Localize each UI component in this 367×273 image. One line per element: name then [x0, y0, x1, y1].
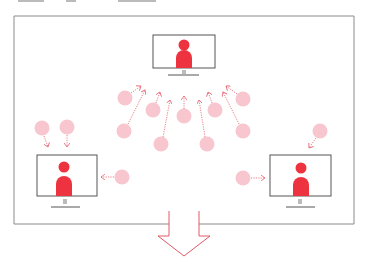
participant-icon	[115, 170, 130, 185]
participant-icon	[154, 137, 169, 152]
monitor-left	[37, 155, 97, 207]
participant-icon	[236, 171, 251, 186]
participant-icon	[208, 103, 223, 118]
participant-icon	[60, 120, 75, 135]
participant-icon	[146, 103, 161, 118]
person-head-icon	[59, 162, 70, 173]
person-head-icon	[179, 40, 190, 51]
diagram-canvas	[0, 0, 367, 273]
participant-icon	[200, 137, 215, 152]
output-arrow-icon	[158, 211, 210, 256]
person-body-icon	[56, 176, 72, 196]
participant-icon	[236, 92, 251, 107]
person-body-icon	[176, 50, 192, 68]
participant-icon	[236, 124, 251, 139]
participant-icon	[35, 121, 50, 136]
person-body-icon	[293, 177, 309, 196]
monitor-right	[270, 155, 331, 207]
person-head-icon	[296, 163, 307, 174]
participant-icon	[313, 124, 328, 139]
participant-icon	[177, 109, 192, 124]
participant-icon	[118, 91, 133, 106]
participant-icon	[117, 124, 132, 139]
cropped-caption-fragment	[18, 0, 156, 2]
monitor-top	[153, 35, 215, 75]
